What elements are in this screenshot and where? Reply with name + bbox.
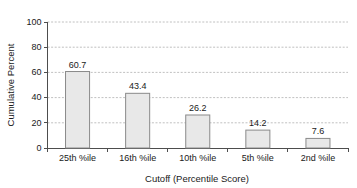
y-axis-tick-label: 100: [26, 17, 41, 27]
chart-canvas: 020406080100 60.743.426.214.27.6 25th %i…: [0, 0, 357, 188]
x-axis-tick-label: 5th %ile: [242, 153, 274, 163]
bar-value-label: 43.4: [129, 81, 147, 91]
bar-value-label: 26.2: [189, 103, 207, 113]
bar: [126, 93, 150, 148]
x-axis-title: Cutoff (Percentile Score): [145, 173, 249, 184]
bar-chart: 020406080100 60.743.426.214.27.6 25th %i…: [0, 0, 357, 188]
y-axis-tick-label: 0: [36, 143, 41, 153]
bar: [246, 130, 270, 148]
y-axis-tick-label: 40: [31, 92, 41, 102]
bar-value-label: 14.2: [249, 118, 267, 128]
bar: [66, 72, 90, 148]
y-axis-tick-label: 20: [31, 118, 41, 128]
y-axis-tick-label: 60: [31, 67, 41, 77]
y-axis-title: Cumulative Percent: [5, 43, 16, 126]
x-axis-tick-label: 10th %ile: [179, 153, 216, 163]
bar-value-label: 60.7: [69, 60, 87, 70]
x-axis-tick-label: 25th %ile: [59, 153, 96, 163]
x-axis-tick-label: 16th %ile: [119, 153, 156, 163]
bar: [186, 115, 210, 148]
y-axis-tick-label: 80: [31, 42, 41, 52]
bar: [306, 138, 330, 148]
x-axis-tick-label: 2nd %ile: [301, 153, 336, 163]
bar-value-label: 7.6: [312, 126, 325, 136]
